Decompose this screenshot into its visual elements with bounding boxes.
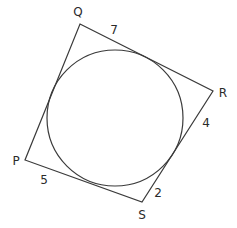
segment-label-4: 4 (202, 117, 210, 129)
vertex-label-r: R (219, 87, 227, 99)
vertex-label-q: Q (73, 6, 82, 18)
segment-label-5: 5 (40, 174, 48, 186)
inscribed-circle (47, 50, 183, 186)
segment-label-2: 2 (154, 187, 162, 199)
segment-label-7: 7 (110, 24, 118, 36)
diagram-svg (0, 0, 237, 228)
diagram-canvas: Q R S P 7 4 2 5 (0, 0, 237, 228)
vertex-label-s: S (138, 209, 146, 221)
vertex-label-p: P (12, 155, 19, 167)
